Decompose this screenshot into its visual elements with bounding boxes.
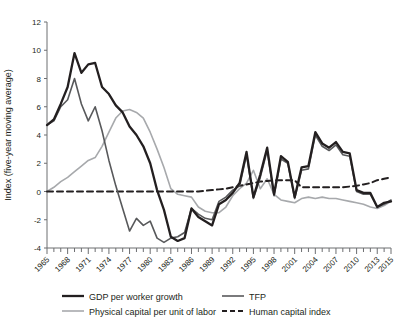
y-tick-label: 10 (32, 46, 41, 55)
y-tick-label: 0 (37, 188, 42, 197)
x-tick-label: 2015 (376, 255, 395, 274)
x-tick-label: 1998 (260, 255, 279, 274)
axis-lines (47, 22, 391, 248)
x-axis-ticks: 1965196819711974197719801983198619891992… (32, 248, 395, 274)
y-axis-ticks: 121086420-2-4 (32, 18, 47, 253)
x-tick-label: 1980 (136, 255, 155, 274)
y-tick-label: -2 (34, 216, 42, 225)
chart-legend: GDP per worker growthTFPPhysical capital… (62, 292, 331, 317)
x-tick-label: 1971 (74, 255, 93, 274)
x-tick-label: 2001 (280, 255, 299, 274)
x-tick-label: 1965 (32, 255, 51, 274)
series-lines (47, 53, 391, 242)
x-tick-label: 1977 (115, 255, 134, 274)
x-tick-label: 2010 (342, 255, 361, 274)
series-line-tfp (47, 79, 391, 243)
y-tick-label: 2 (37, 159, 42, 168)
series-line-physical-capital-per-unit-of-labor (47, 110, 391, 213)
legend-label: TFP (249, 292, 266, 302)
legend-label: Human capital index (249, 307, 331, 317)
x-tick-label: 2007 (321, 255, 340, 274)
x-tick-label: 1986 (177, 255, 196, 274)
x-tick-label: 1974 (94, 255, 113, 274)
y-tick-label: 8 (37, 75, 42, 84)
legend-label: GDP per worker growth (89, 292, 183, 302)
y-tick-label: -4 (34, 244, 42, 253)
line-chart: Index (five-year moving average) 1210864… (0, 0, 407, 327)
legend-label: Physical capital per unit of labor (89, 307, 216, 317)
y-tick-label: 4 (37, 131, 42, 140)
x-tick-label: 1968 (53, 255, 72, 274)
x-tick-label: 2004 (301, 255, 320, 274)
x-tick-label: 1989 (198, 255, 217, 274)
y-tick-label: 12 (32, 18, 41, 27)
x-tick-label: 1992 (218, 255, 237, 274)
series-line-human-capital-index (47, 177, 391, 191)
chart-container: Index (five-year moving average) 1210864… (0, 0, 407, 327)
x-tick-label: 1995 (239, 255, 258, 274)
y-tick-label: 6 (37, 103, 42, 112)
y-axis-title-text: Index (five-year moving average) (3, 69, 13, 201)
x-tick-label: 1983 (156, 255, 175, 274)
y-axis-title: Index (five-year moving average) (3, 69, 13, 201)
